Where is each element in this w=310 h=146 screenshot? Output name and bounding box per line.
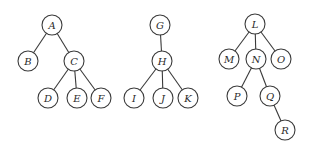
node-label: P <box>233 91 241 102</box>
node-label: E <box>72 93 81 104</box>
node-N: N <box>246 49 266 69</box>
node-H: H <box>152 51 172 71</box>
node-label: Q <box>266 91 274 102</box>
node-label: R <box>280 125 289 136</box>
node-F: F <box>91 88 111 108</box>
node-label: C <box>70 56 78 67</box>
node-A: A <box>42 15 62 35</box>
edges-layer <box>28 24 285 130</box>
node-L: L <box>245 14 265 34</box>
node-label: G <box>156 20 164 31</box>
node-label: L <box>251 19 259 30</box>
node-P: P <box>227 86 247 106</box>
node-C: C <box>64 51 84 71</box>
node-label: O <box>277 54 285 65</box>
node-label: B <box>23 56 31 67</box>
node-E: E <box>67 88 87 108</box>
node-I: I <box>124 88 144 108</box>
tree-3 <box>229 24 285 130</box>
node-D: D <box>38 88 58 108</box>
node-label: F <box>97 93 106 104</box>
node-label: N <box>251 54 262 65</box>
node-label: H <box>157 56 167 67</box>
forest-diagram: ABCDEFGHIJKLMNOPQR <box>0 0 310 146</box>
node-B: B <box>18 51 38 71</box>
node-M: M <box>219 49 239 69</box>
node-Q: Q <box>260 86 280 106</box>
node-R: R <box>275 120 295 140</box>
node-K: K <box>178 88 198 108</box>
node-J: J <box>153 88 173 108</box>
node-label: J <box>159 93 166 104</box>
node-O: O <box>271 49 291 69</box>
node-label: M <box>223 54 235 65</box>
node-label: A <box>47 20 55 31</box>
node-G: G <box>150 15 170 35</box>
node-label: K <box>183 93 192 104</box>
node-label: D <box>43 93 52 104</box>
nodes-layer: ABCDEFGHIJKLMNOPQR <box>18 14 295 140</box>
